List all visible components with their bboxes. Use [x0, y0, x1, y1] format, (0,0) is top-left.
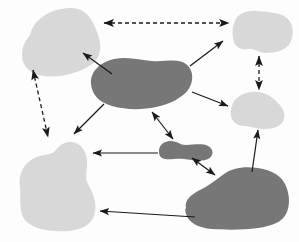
blob-connection-diagram: [0, 0, 299, 242]
blob-top-right[interactable]: [233, 11, 293, 53]
diagram-canvas: [0, 0, 299, 242]
